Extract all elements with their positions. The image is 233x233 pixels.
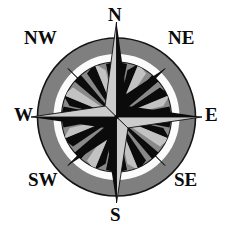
label-northwest: NW	[24, 28, 57, 47]
label-north: N	[108, 5, 122, 24]
label-southeast: SE	[174, 170, 197, 189]
label-west: W	[14, 105, 33, 124]
center-hub	[114, 115, 118, 119]
label-south: S	[110, 205, 121, 224]
label-east: E	[205, 105, 218, 124]
compass-rose-figure: N NE E SE S SW W NW	[0, 0, 233, 233]
label-southwest: SW	[28, 170, 58, 189]
label-northeast: NE	[168, 28, 194, 47]
